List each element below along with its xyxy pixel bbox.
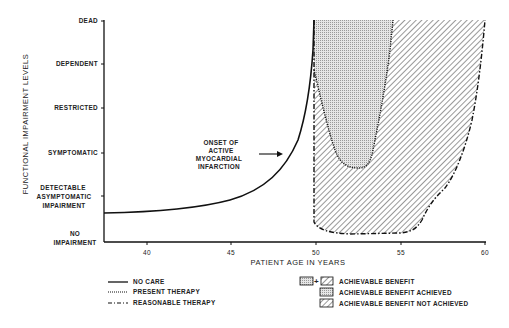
y-label-no-impairment-1: NO [70,230,80,237]
y-label-dependent: DEPENDENT [56,60,98,67]
legend-lines: NO CARE PRESENT THERAPY REASONABLE THERA… [108,278,216,306]
annotation-line-3: MYOCARDIAL [196,155,242,162]
y-label-detectable-3: IMPAIRMENT [43,202,86,209]
y-label-detectable-2: ASYMPTOMATIC [37,193,92,200]
legend-reasonable-therapy: REASONABLE THERAPY [133,299,216,306]
x-tick-55: 55 [397,249,405,256]
x-tick-40: 40 [143,249,151,256]
series-no-care [104,20,314,213]
y-label-restricted: RESTRICTED [54,104,98,111]
x-axis-title: PATIENT AGE IN YEARS [251,258,346,267]
y-label-no-impairment-2: IMPAIRMENT [54,239,97,246]
y-label-dead: DEAD [79,17,98,24]
x-tick-45: 45 [227,249,235,256]
legend-stipple-swatch-icon [320,288,333,296]
legend-achievable-benefit: ACHIEVABLE BENEFIT [339,278,415,285]
legend-no-care: NO CARE [133,278,165,285]
x-tick-60: 60 [481,249,489,256]
annotation-arrow-icon [259,151,283,157]
y-label-detectable-1: DETECTABLE [40,184,86,191]
legend-hatch-swatch-icon [320,299,333,307]
legend-stipple-swatch-icon [300,277,313,285]
legend-plus: + [314,277,319,286]
annotation-line-1: ONSET OF [203,139,238,146]
annotation-line-4: INFARCTION [198,163,240,170]
legend-hatch-swatch-icon [321,277,333,285]
chart: DEAD DEPENDENT RESTRICTED SYMPTOMATIC DE… [0,0,509,328]
legend-benefit-achieved: ACHIEVABLE BENEFIT ACHIEVED [339,289,452,296]
x-tick-50: 50 [312,249,320,256]
y-label-symptomatic: SYMPTOMATIC [48,149,98,156]
legend-areas: + ACHIEVABLE BENEFIT ACHIEVABLE BENEFIT … [300,277,468,307]
legend-present-therapy: PRESENT THERAPY [133,288,200,295]
legend-benefit-not-achieved: ACHIEVABLE BENEFIT NOT ACHIEVED [339,300,468,307]
y-axis-title: FUNCTIONAL IMPAIRMENT LEVELS [21,54,30,195]
annotation-line-2: ACTIVE [208,147,234,154]
